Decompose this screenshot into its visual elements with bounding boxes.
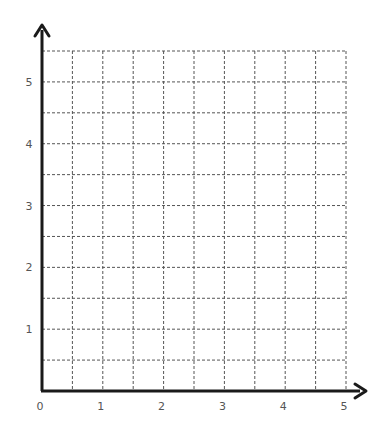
x-tick-label: 5 bbox=[341, 400, 348, 413]
x-tick-label: 2 bbox=[158, 400, 165, 413]
y-tick-label: 1 bbox=[26, 323, 33, 336]
coordinate-grid: 012345 12345 bbox=[0, 0, 380, 430]
y-tick-label: 3 bbox=[26, 200, 33, 213]
x-tick-label: 3 bbox=[219, 400, 226, 413]
y-tick-label: 5 bbox=[26, 76, 33, 89]
y-tick-label: 4 bbox=[26, 138, 33, 151]
grid-lines bbox=[42, 51, 346, 391]
axes bbox=[35, 25, 366, 398]
x-tick-label: 1 bbox=[97, 400, 104, 413]
y-tick-labels: 12345 bbox=[26, 76, 33, 336]
y-tick-label: 2 bbox=[26, 261, 33, 274]
x-tick-label: 4 bbox=[280, 400, 287, 413]
x-tick-label: 0 bbox=[37, 400, 44, 413]
x-tick-labels: 012345 bbox=[37, 400, 348, 413]
